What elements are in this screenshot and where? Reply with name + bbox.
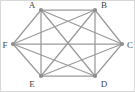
- graph-vertex-c: [120, 42, 124, 46]
- graph-edge-a-f: [13, 10, 41, 44]
- vertex-label-a: A: [29, 0, 36, 10]
- graph-vertex-d: [93, 74, 97, 78]
- graph-vertex-f: [11, 42, 15, 46]
- graph-figure: ABCDEF: [0, 0, 135, 92]
- edge-layer: [13, 10, 122, 76]
- vertex-label-c: C: [127, 40, 133, 50]
- vertex-label-e: E: [29, 79, 35, 89]
- vertex-label-b: B: [101, 0, 107, 10]
- graph-canvas: ABCDEF: [0, 0, 135, 92]
- vertex-label-d: D: [101, 79, 108, 89]
- graph-vertex-e: [39, 74, 43, 78]
- figure-border: [1, 1, 135, 92]
- vertex-label-f: F: [2, 40, 7, 50]
- graph-vertex-b: [93, 8, 97, 12]
- graph-vertex-a: [39, 8, 43, 12]
